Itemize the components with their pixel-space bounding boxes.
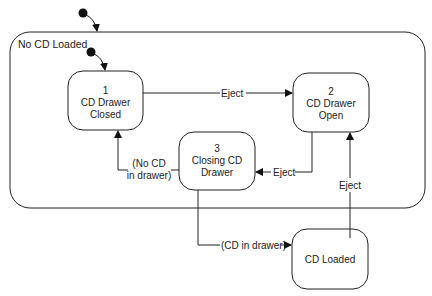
transition-1-to-2[interactable]: Eject bbox=[143, 88, 292, 99]
transition-3-to-1-label-line1: (No CD bbox=[132, 158, 165, 169]
state-2-number: 2 bbox=[328, 86, 334, 97]
state-1-cd-drawer-closed[interactable]: 1 CD Drawer Closed bbox=[68, 71, 143, 130]
transition-3-to-loaded-label: (CD in drawer) bbox=[221, 240, 286, 251]
state-2-name-line1: CD Drawer bbox=[306, 98, 356, 109]
transition-2-to-3[interactable]: Eject bbox=[256, 132, 312, 178]
state-3-closing-cd-drawer[interactable]: 3 Closing CD Drawer bbox=[179, 132, 255, 190]
transition-2-to-3-label: Eject bbox=[273, 167, 295, 178]
transition-loaded-to-2[interactable]: Eject bbox=[339, 133, 361, 238]
state-3-name-line2: Drawer bbox=[201, 167, 234, 178]
state-diagram: No CD Loaded 1 CD Drawer Closed 2 CD Dra… bbox=[0, 0, 432, 296]
superstate-label: No CD Loaded bbox=[18, 38, 88, 50]
initial-transition-outer bbox=[84, 14, 97, 31]
state-2-cd-drawer-open[interactable]: 2 CD Drawer Open bbox=[293, 73, 369, 132]
transition-3-to-1-label-line2: in drawer) bbox=[127, 170, 171, 181]
state-1-name-line1: CD Drawer bbox=[81, 97, 131, 108]
transition-loaded-to-2-label: Eject bbox=[339, 180, 361, 191]
state-1-number: 1 bbox=[103, 85, 109, 96]
state-cd-loaded[interactable]: CD Loaded bbox=[292, 229, 368, 289]
transition-3-to-loaded[interactable]: (CD in drawer) bbox=[198, 190, 291, 251]
state-cd-loaded-name: CD Loaded bbox=[305, 254, 356, 265]
initial-transition-inner bbox=[92, 53, 105, 70]
state-2-name-line2: Open bbox=[319, 110, 343, 121]
state-3-number: 3 bbox=[214, 143, 220, 154]
state-1-name-line2: Closed bbox=[90, 109, 121, 120]
initial-dot-inner bbox=[87, 48, 96, 57]
state-3-name-line1: Closing CD bbox=[192, 155, 243, 166]
transition-1-to-2-label: Eject bbox=[221, 88, 243, 99]
initial-dot-outer bbox=[79, 9, 88, 18]
transition-3-to-1[interactable]: (No CD in drawer) bbox=[118, 131, 179, 181]
